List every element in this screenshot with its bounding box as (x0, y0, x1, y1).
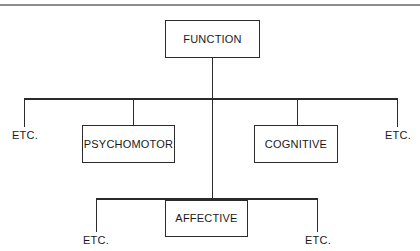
node-function[interactable]: FUNCTION (165, 20, 260, 58)
leaf-etc-bottom-left: ETC. (83, 235, 109, 246)
node-cognitive-label: COGNITIVE (265, 139, 327, 150)
leaf-etc-far-right: ETC. (385, 130, 411, 141)
node-affective-label: AFFECTIVE (175, 213, 237, 224)
node-psychomotor[interactable]: PSYCHOMOTOR (82, 125, 175, 163)
leaf-etc-far-left: ETC. (12, 130, 38, 141)
leaf-etc-bottom-right: ETC. (305, 235, 331, 246)
node-function-label: FUNCTION (183, 34, 241, 45)
diagram-page: FUNCTION PSYCHOMOTOR COGNITIVE AFFECTIVE… (0, 0, 420, 251)
node-psychomotor-label: PSYCHOMOTOR (84, 139, 173, 150)
node-affective[interactable]: AFFECTIVE (165, 200, 248, 237)
node-cognitive[interactable]: COGNITIVE (254, 125, 338, 163)
